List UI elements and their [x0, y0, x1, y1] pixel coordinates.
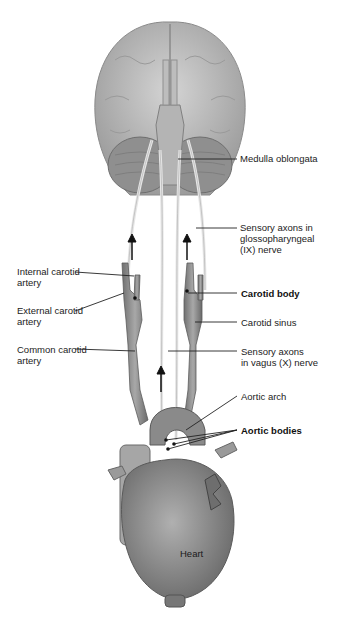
baroreceptor-chemoreceptor-diagram: Medulla oblongata Sensory axons in gloss…: [0, 0, 340, 617]
brain: [95, 22, 245, 195]
label-medulla-oblongata: Medulla oblongata: [240, 153, 318, 164]
label-vagus-nerve: Sensory axons in vagus (X) nerve: [241, 346, 318, 368]
heart: [108, 408, 237, 608]
label-common-carotid: Common carotid artery: [17, 344, 87, 366]
label-carotid-sinus: Carotid sinus: [241, 317, 296, 328]
label-heart: Heart: [180, 548, 203, 559]
label-aortic-bodies: Aortic bodies: [241, 425, 302, 436]
label-carotid-body: Carotid body: [241, 288, 300, 299]
label-aortic-arch: Aortic arch: [241, 391, 286, 402]
label-internal-carotid: Internal carotid artery: [17, 266, 80, 288]
label-external-carotid: External carotid artery: [17, 305, 83, 327]
leader-lines: [75, 159, 237, 449]
label-glossopharyngeal-nerve: Sensory axons in glossopharyngeal (IX) n…: [240, 222, 314, 255]
